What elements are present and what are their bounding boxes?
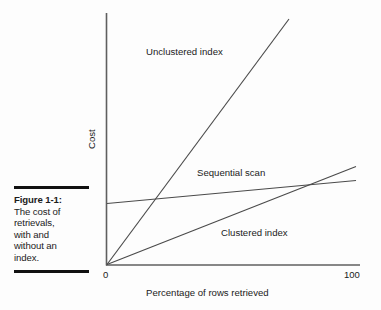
y-axis-title: Cost bbox=[86, 129, 97, 149]
chart-plot-area: Unclustered index Sequential scan Cluste… bbox=[0, 0, 381, 310]
x-tick-label-100: 100 bbox=[344, 269, 360, 280]
series-label-unclustered-index: Unclustered index bbox=[146, 46, 223, 57]
x-axis-title: Percentage of rows retrieved bbox=[146, 287, 269, 298]
x-tick-label-0: 0 bbox=[103, 269, 108, 280]
series-label-clustered-index: Clustered index bbox=[221, 227, 288, 238]
figure-page: Figure 1-1: The cost of retrievals, with… bbox=[0, 0, 381, 310]
series-label-sequential-scan: Sequential scan bbox=[197, 167, 265, 178]
series-line-clustered-index bbox=[107, 167, 356, 265]
series-line-sequential-scan bbox=[107, 181, 356, 204]
